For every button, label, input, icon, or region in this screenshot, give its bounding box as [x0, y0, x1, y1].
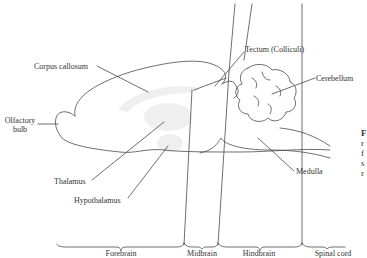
- tectum-leader-2: [194, 78, 226, 90]
- hypothalamus-leader: [128, 146, 168, 198]
- label-corpus-callosum: Corpus callosum: [34, 62, 88, 71]
- medulla-top-outline: [280, 128, 330, 146]
- label-cerebellum: Cerebellum: [316, 74, 353, 83]
- corpus-callosum-leader: [97, 66, 148, 92]
- caption-fragment-3: s: [361, 158, 365, 168]
- caption-fragment-2: f: [361, 148, 364, 158]
- region-midbrain: Midbrain: [182, 249, 222, 258]
- thalamus-shading: [144, 103, 192, 131]
- caption-fragment-1: r: [361, 138, 364, 148]
- label-olfactory-line1: Olfactory: [2, 116, 38, 125]
- label-tectum: Tectum (Colliculi): [245, 45, 304, 54]
- brainstem-outline: [200, 138, 330, 158]
- midbrain-hindbrain-boundary: [218, 72, 229, 245]
- label-olfactory-bulb: Olfactory bulb: [2, 116, 38, 134]
- label-thalamus: Thalamus: [54, 177, 86, 186]
- caption-fragment-0: F: [361, 128, 367, 138]
- label-medulla: Medulla: [296, 167, 323, 176]
- medulla-leader: [258, 138, 294, 171]
- olfactory-outline: [55, 112, 330, 153]
- region-forebrain: Forebrain: [96, 249, 146, 258]
- hypothalamus-shading: [157, 134, 183, 152]
- cerebellum-leader: [272, 78, 315, 94]
- midbrain-hindbrain-boundary-top: [229, 4, 235, 72]
- cerebellum-folia: [252, 72, 281, 114]
- region-spinal-cord: Spinal cord: [305, 249, 361, 258]
- cerebellum-outline: [236, 64, 296, 121]
- shaded-structures: [118, 86, 200, 152]
- label-hypothalamus: Hypothalamus: [74, 196, 121, 205]
- caption-fragment-4: r: [361, 168, 364, 178]
- thalamus-leader: [92, 122, 164, 180]
- label-olfactory-line2: bulb: [2, 125, 38, 134]
- region-hindbrain: Hindbrain: [234, 249, 284, 258]
